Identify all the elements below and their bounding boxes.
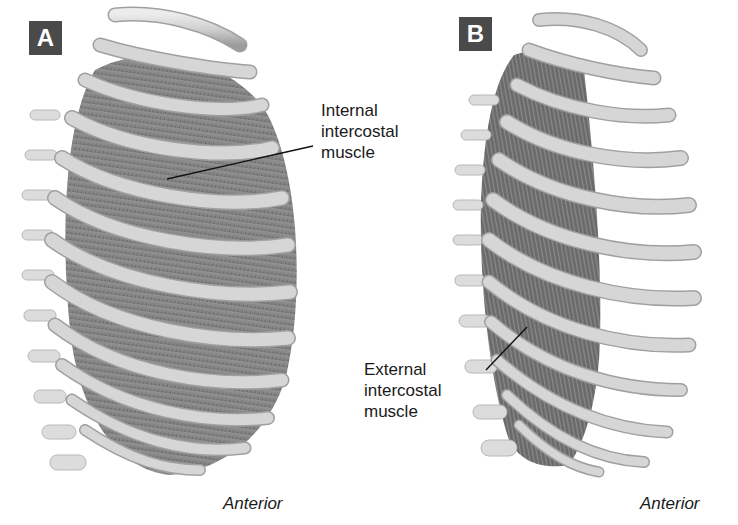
- panel-a: A: [0, 0, 369, 525]
- view-caption-a: Anterior: [223, 494, 283, 514]
- internal-intercostal-muscle-label: Internal intercostal muscle: [321, 100, 398, 163]
- rib-cage-illustration-external-intercostal: [369, 0, 738, 525]
- panel-label-a: A: [29, 21, 62, 55]
- rib-cage-illustration-internal-intercostal: [0, 0, 369, 525]
- panel-label-b: B: [459, 17, 492, 51]
- view-caption-b: Anterior: [640, 494, 700, 514]
- external-intercostal-muscle-label: External intercostal muscle: [364, 359, 441, 422]
- panel-b: B: [369, 0, 738, 525]
